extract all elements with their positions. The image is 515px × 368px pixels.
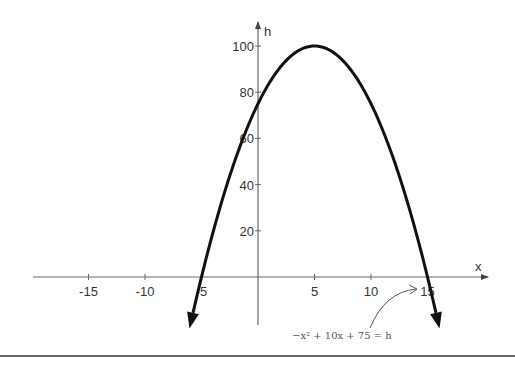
y-ticks: 20406080100 xyxy=(232,39,261,239)
x-tick-label: 5 xyxy=(311,284,318,299)
parabola-curve xyxy=(193,46,436,313)
y-tick-label: 100 xyxy=(232,39,254,54)
y-axis-label: h xyxy=(264,24,271,39)
y-tick-label: 20 xyxy=(240,224,254,239)
x-tick-label: -15 xyxy=(79,284,98,299)
equation-label: −x² + 10x + 75 = h xyxy=(292,330,392,341)
right-arrowhead-icon xyxy=(430,312,442,329)
x-tick-label: 10 xyxy=(364,284,378,299)
x-axis-label: x xyxy=(475,259,482,274)
left-arrowhead-icon xyxy=(187,312,199,329)
x-tick-label: -10 xyxy=(136,284,155,299)
y-tick-label: 80 xyxy=(240,85,254,100)
y-tick-label: 40 xyxy=(240,178,254,193)
x-ticks: -15-10-551015 xyxy=(79,274,435,299)
parabola-chart: -15-10-551015 20406080100 x h −x² + 10x … xyxy=(0,0,515,368)
